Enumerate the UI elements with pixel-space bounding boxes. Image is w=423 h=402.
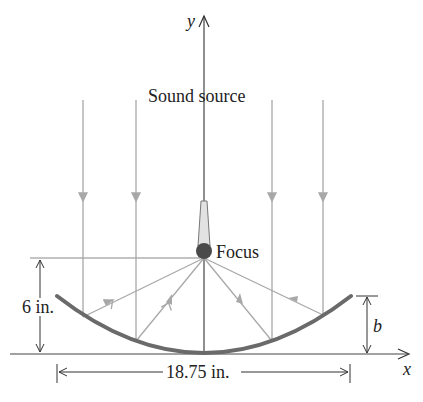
focus-label: Focus bbox=[216, 243, 259, 261]
y-axis-label: y bbox=[187, 12, 195, 30]
focus-point bbox=[196, 243, 212, 259]
reflected-rays bbox=[83, 258, 323, 341]
diagram-canvas bbox=[0, 0, 423, 402]
depth-label: 6 in. bbox=[22, 298, 54, 316]
parabolic-reflector-diagram: y x Sound source Focus 6 in. 18.75 in. b bbox=[0, 0, 423, 402]
x-axis-label: x bbox=[403, 360, 411, 378]
width-label: 18.75 in. bbox=[166, 363, 230, 381]
sound-source-label: Sound source bbox=[148, 87, 246, 105]
microphone-icon bbox=[198, 201, 210, 246]
rim-height-label: b bbox=[373, 317, 382, 335]
reflected-ray-arrow-icons bbox=[103, 293, 298, 306]
